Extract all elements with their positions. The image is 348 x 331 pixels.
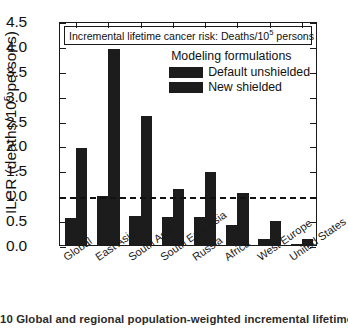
plot-area: Incremental lifetime cancer risk: Deaths… [59,22,317,246]
legend-label-default-unshielded: Default unshielded [208,65,310,79]
y-axis-tick [310,98,316,99]
figure-container: ILCR (deaths/105 persons) Incremental li… [0,0,348,331]
bar-east-asia-new-shielded [108,49,119,245]
x-axis-tick-top [76,23,77,28]
y-axis-tick-label: 0.5 [6,212,27,230]
y-axis-tick [60,247,66,248]
legend-swatch-default-unshielded [169,67,203,78]
bar-south-asia-new-shielded [141,116,152,245]
x-axis-tick-top [205,23,206,28]
x-axis-tick-top [302,23,303,28]
y-axis-tick-label: 2.0 [6,137,27,155]
y-axis-tick-label: 3.0 [6,88,27,106]
y-axis-tick-label: 1.5 [6,162,27,180]
legend-item-default-unshielded: Default unshielded [169,65,310,79]
y-axis-tick [60,123,66,124]
chart-title-main: Incremental lifetime cancer risk: Deaths… [69,30,269,42]
y-axis-tick-label: 0.0 [6,237,27,255]
legend-swatch-new-shielded [169,82,203,93]
y-axis-tick-label: 2.5 [6,113,27,131]
y-axis-tick [310,48,316,49]
chart-title-box: Incremental lifetime cancer risk: Deaths… [64,26,312,45]
figure-caption: 10 Global and regional population-weight… [0,313,348,325]
bar-east-asia-default-unshielded [97,196,108,245]
legend-title: Modeling formulations [169,49,310,63]
x-axis-tick-top [237,23,238,28]
y-axis-tick [310,73,316,74]
y-axis-tick [60,23,66,24]
legend-label-new-shielded: New shielded [208,80,282,94]
bar-global-default-unshielded [65,218,76,245]
legend-item-new-shielded: New shielded [169,80,310,94]
x-axis-tick-top [141,23,142,28]
y-axis-tick [60,48,66,49]
y-axis-tick [60,98,66,99]
y-axis-tick [60,172,66,173]
y-axis-tick-label: 4.0 [6,38,27,56]
chart-title-tail: persons [273,30,314,42]
x-axis-tick-top [173,23,174,28]
threshold-reference-line [60,197,316,199]
y-axis-tick [310,23,316,24]
y-axis-tick [310,172,316,173]
x-axis-tick-top [270,23,271,28]
y-axis-tick [60,147,66,148]
y-axis-tick-label: 1.0 [6,187,27,205]
y-axis-tick [310,123,316,124]
legend: Modeling formulations Default unshielded… [169,49,310,94]
x-axis-tick-top [108,23,109,28]
y-axis-tick [60,73,66,74]
y-axis-tick [310,147,316,148]
y-axis-tick-label: 4.5 [6,13,27,31]
y-axis-tick-label: 3.5 [6,63,27,81]
